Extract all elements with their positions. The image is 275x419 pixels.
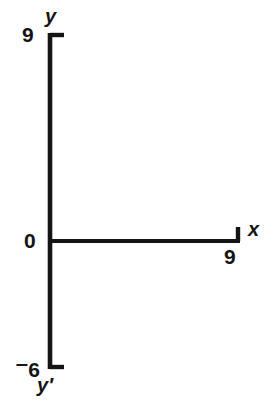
y-prime-base: y xyxy=(37,374,48,396)
negative-sign-glyph: – xyxy=(16,352,28,373)
y-prime-axis-name-label: y′ xyxy=(37,375,53,395)
y-axis-name-label: y xyxy=(45,6,56,26)
y-axis-max-tick-label: 9 xyxy=(22,24,34,45)
x-axis-max-tick-label: 9 xyxy=(224,246,236,267)
origin-tick-label: 0 xyxy=(24,230,36,251)
x-axis-name-label: x xyxy=(248,219,259,239)
prime-glyph: ′ xyxy=(48,374,53,396)
coordinate-axes-figure: y 9 0 x 9 –6 y′ xyxy=(0,0,275,419)
axes-drawing xyxy=(0,0,275,419)
